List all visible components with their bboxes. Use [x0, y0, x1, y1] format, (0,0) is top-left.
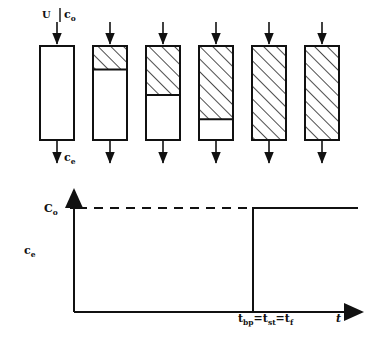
column-saturated-zone-5: [252, 46, 286, 140]
column-saturated-zone-2: [93, 46, 127, 70]
column-body-1: [40, 46, 74, 140]
outlet-concentration-subscript: e: [71, 157, 76, 166]
inlet-velocity-label: U: [42, 9, 51, 20]
column-2: [93, 22, 127, 163]
inlet-concentration-label: co: [64, 8, 76, 23]
eq-2: =: [276, 312, 285, 325]
column-1: [40, 22, 74, 163]
x-axis-label: t: [336, 312, 341, 325]
c0-base: C: [44, 202, 53, 215]
eq-1: =: [254, 312, 263, 325]
column-4: [199, 22, 233, 163]
breakthrough-curve: [74, 208, 358, 312]
y-level-label-c0: Co: [44, 202, 58, 217]
ce-subscript: e: [31, 250, 36, 259]
t-bp-subscript: bp: [243, 318, 254, 327]
column-saturated-zone-6: [305, 46, 339, 140]
breakthrough-chart: Co ce tbp=tst=tf t: [24, 190, 362, 327]
column-3: [146, 22, 180, 163]
outlet-concentration-label: ce: [64, 151, 76, 166]
column-5: [252, 22, 286, 163]
column-saturated-zone-4: [199, 46, 233, 119]
c0-subscript: o: [53, 208, 58, 217]
schematic-svg: U co ce Co: [0, 0, 382, 343]
column-saturated-zone-3: [146, 46, 180, 95]
t-f-subscript: f: [290, 318, 294, 327]
inlet-concentration-subscript: o: [71, 14, 76, 23]
column-panel: U co ce: [40, 8, 339, 166]
figure-canvas: U co ce Co: [0, 0, 382, 343]
y-axis-label: ce: [24, 244, 36, 259]
column-6: [305, 22, 339, 163]
x-tick-label-breakthrough-times: tbp=tst=tf: [238, 312, 294, 327]
